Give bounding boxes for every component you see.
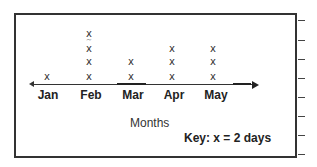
right-tick [298,40,305,41]
data-marker-jan: x [44,72,50,82]
right-tick [298,135,305,136]
data-marker-apr: x [169,44,175,54]
right-tick [298,97,305,98]
month-label-jan: Jan [38,88,59,102]
data-marker-may: x [210,72,216,82]
data-marker-may: x [210,57,216,67]
data-marker-mar: x [128,57,134,67]
x-axis-title: Months [130,116,169,130]
axis-segment [117,83,146,85]
axis-segment [233,83,251,85]
data-marker-may: x [210,44,216,54]
data-marker-feb: x [86,72,92,82]
month-label-mar: Mar [122,88,143,102]
month-label-apr: Apr [164,88,185,102]
right-tick [298,116,305,117]
data-marker-mar: x [128,72,134,82]
marker-underline: ~ [86,37,92,43]
right-tick [298,154,305,155]
data-marker-feb: x [86,44,92,54]
data-marker-apr: x [169,72,175,82]
month-label-feb: Feb [80,88,101,102]
arrow-left-icon [29,81,34,87]
right-tick [298,78,305,79]
month-label-may: May [204,88,227,102]
data-marker-apr: x [169,57,175,67]
right-tick [298,20,305,21]
right-tick [298,59,305,60]
chart-key: Key: x = 2 days [184,131,271,145]
arrow-right-icon [252,81,259,89]
data-marker-feb: x [86,57,92,67]
